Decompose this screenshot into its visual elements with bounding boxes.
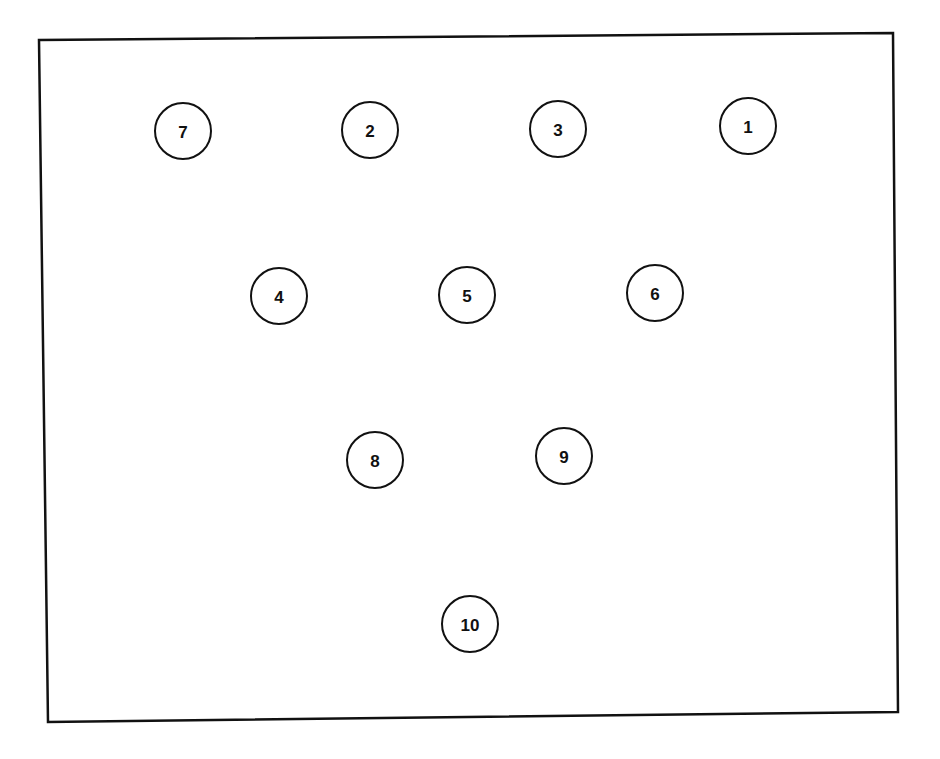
pin-number: 4 xyxy=(274,288,284,307)
pin-number: 3 xyxy=(553,121,562,140)
pin-1: 1 xyxy=(720,98,776,154)
pin-5: 5 xyxy=(439,267,495,323)
pin-8: 8 xyxy=(347,432,403,488)
pin-7: 7 xyxy=(155,103,211,159)
pin-number: 7 xyxy=(178,123,187,142)
pin-number: 8 xyxy=(370,452,379,471)
pin-number: 9 xyxy=(559,448,568,467)
pin-diagram: 72314568910 xyxy=(0,0,940,759)
pin-4: 4 xyxy=(251,268,307,324)
pin-number: 5 xyxy=(462,287,471,306)
pin-number: 10 xyxy=(461,616,480,635)
pin-10: 10 xyxy=(442,596,498,652)
pin-2: 2 xyxy=(342,102,398,158)
pin-number: 6 xyxy=(650,285,659,304)
pin-group: 72314568910 xyxy=(155,98,776,652)
pin-number: 1 xyxy=(743,118,752,137)
pin-3: 3 xyxy=(530,101,586,157)
pin-number: 2 xyxy=(365,122,374,141)
pin-6: 6 xyxy=(627,265,683,321)
pin-9: 9 xyxy=(536,428,592,484)
